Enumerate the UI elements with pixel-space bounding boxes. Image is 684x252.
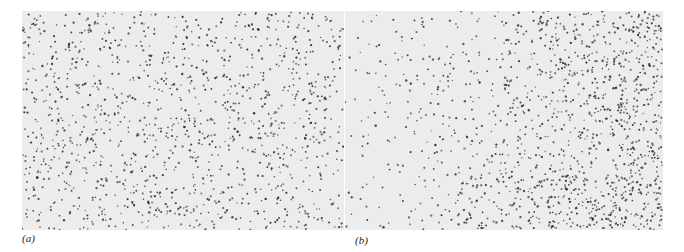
- dot: [568, 57, 570, 59]
- dot: [237, 161, 239, 163]
- dot: [87, 29, 89, 31]
- dot: [419, 203, 421, 205]
- dot: [494, 15, 496, 17]
- dot: [305, 64, 307, 66]
- dot: [302, 125, 304, 127]
- dot: [118, 73, 120, 75]
- dot: [64, 181, 66, 183]
- dot: [629, 114, 630, 115]
- dot: [383, 94, 385, 96]
- dot: [84, 180, 85, 181]
- dot: [292, 196, 294, 198]
- dot: [100, 184, 102, 186]
- dot: [467, 183, 469, 185]
- dot: [610, 126, 612, 128]
- dot: [262, 125, 264, 127]
- dot: [425, 114, 427, 116]
- dot: [210, 175, 212, 177]
- dot: [500, 209, 502, 211]
- dot: [93, 150, 95, 152]
- dot: [526, 96, 528, 98]
- dot: [86, 20, 87, 21]
- dot: [640, 154, 642, 156]
- dot: [457, 200, 459, 202]
- dot: [621, 90, 623, 92]
- dot: [628, 165, 630, 167]
- dot: [643, 203, 645, 205]
- dot: [565, 186, 566, 187]
- dot: [561, 149, 563, 151]
- dot: [179, 97, 180, 98]
- dot: [209, 143, 211, 145]
- dot: [595, 209, 597, 211]
- dot: [71, 190, 73, 192]
- dot: [389, 102, 391, 104]
- dot: [643, 65, 645, 67]
- dot: [103, 46, 105, 48]
- dot: [492, 95, 494, 97]
- dot: [140, 167, 142, 169]
- panel-a-dots: [22, 11, 344, 230]
- dot: [276, 64, 278, 66]
- dot: [553, 205, 555, 207]
- dot: [41, 164, 43, 166]
- dot: [530, 170, 531, 171]
- dot: [608, 69, 610, 71]
- dot: [388, 222, 389, 223]
- dot: [542, 12, 544, 14]
- dot: [78, 92, 80, 94]
- dot: [287, 26, 289, 28]
- dot: [81, 131, 83, 133]
- dot: [410, 59, 412, 61]
- dot: [83, 126, 85, 128]
- dot: [603, 21, 605, 23]
- dot: [604, 15, 606, 17]
- dot: [316, 139, 318, 141]
- dot: [244, 122, 246, 124]
- dot: [243, 178, 245, 180]
- dot: [85, 167, 87, 169]
- dot: [292, 94, 294, 96]
- dot: [625, 209, 627, 211]
- dot: [39, 33, 41, 35]
- dot: [81, 58, 83, 60]
- dot: [433, 179, 435, 181]
- dot: [189, 225, 191, 227]
- dot: [514, 52, 516, 54]
- dot: [624, 59, 626, 61]
- dot: [179, 206, 181, 208]
- dot: [564, 184, 566, 186]
- dot: [326, 108, 328, 110]
- dot: [181, 118, 183, 120]
- dot: [112, 61, 113, 62]
- dot: [47, 63, 48, 64]
- dot: [612, 159, 614, 161]
- dot: [218, 200, 220, 202]
- dot: [163, 57, 165, 59]
- dot: [555, 64, 557, 66]
- dot: [56, 87, 58, 89]
- dot: [53, 35, 55, 37]
- dot: [531, 120, 533, 122]
- dot: [581, 42, 583, 44]
- dot: [625, 216, 627, 218]
- dot: [446, 46, 448, 48]
- dot: [66, 162, 68, 164]
- dot: [97, 22, 99, 24]
- dot: [610, 200, 611, 201]
- dot: [447, 80, 449, 82]
- dot: [342, 146, 344, 148]
- dot: [657, 203, 659, 205]
- dot: [246, 89, 248, 91]
- dot: [572, 222, 574, 224]
- dot: [149, 64, 151, 66]
- dot: [155, 183, 157, 185]
- dot: [659, 135, 661, 137]
- dot: [658, 147, 660, 149]
- dot: [570, 226, 572, 228]
- dot: [581, 193, 582, 194]
- dot: [276, 43, 278, 45]
- dot: [28, 52, 30, 54]
- dot: [497, 105, 499, 107]
- dot: [120, 140, 122, 142]
